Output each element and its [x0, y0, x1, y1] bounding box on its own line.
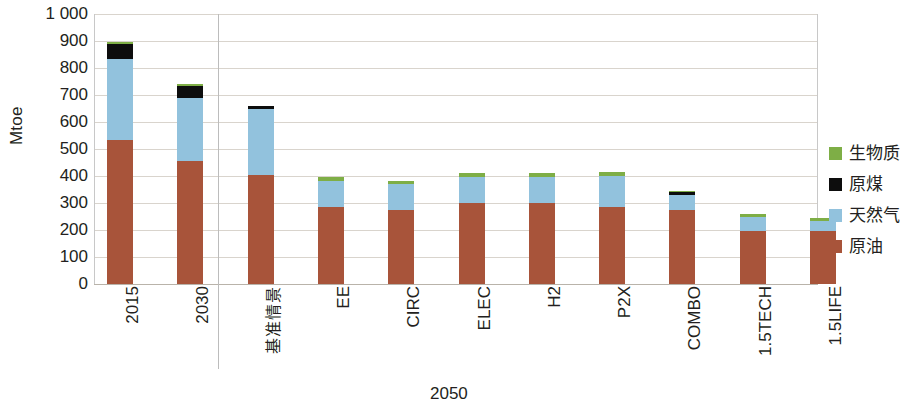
bar-2015 — [107, 42, 133, 284]
legend-item[interactable]: 原油 — [829, 231, 911, 262]
bar-segment — [318, 207, 344, 284]
y-axis-tick-label: 0 — [26, 275, 88, 292]
y-axis-tick-label: 600 — [26, 113, 88, 130]
bar-ELEC — [459, 173, 485, 284]
y-axis-tick-label: 1 000 — [26, 5, 88, 22]
bar-1.5TECH — [740, 214, 766, 284]
plot-area — [94, 14, 818, 284]
x-axis-tick-label-text: CIRC — [401, 286, 427, 328]
y-axis-title: Mtoe — [7, 115, 27, 145]
x-axis-tick-label: COMBO — [669, 286, 695, 382]
bar-CIRC — [388, 181, 414, 284]
x-axis-tick-label-text: 2030 — [190, 286, 216, 324]
x-axis-tick-label: ELEC — [459, 286, 485, 382]
y-axis-tick-label: 300 — [26, 194, 88, 211]
x-axis-tick-label: H2 — [529, 286, 555, 382]
bar-segment — [248, 109, 274, 175]
y-axis-tick-label: 800 — [26, 59, 88, 76]
bar-segment — [107, 44, 133, 59]
stacked-bar-chart: Mtoe 1 0009008007006005004003002001000 2… — [0, 0, 911, 410]
legend-item-label: 天然气 — [849, 207, 900, 224]
legend-swatch-icon — [829, 240, 842, 253]
legend-item-label: 原油 — [849, 238, 883, 255]
bar-segment — [669, 210, 695, 284]
bar-基准情景 — [248, 106, 274, 284]
x-axis-tick-label: 2015 — [107, 286, 133, 382]
bar-segment — [177, 161, 203, 284]
bar-2030 — [177, 84, 203, 284]
x-axis-tick-label-text: ELEC — [472, 286, 498, 330]
legend-item[interactable]: 原煤 — [829, 169, 911, 200]
x-axis-tick-labels: 20152030基准情景EECIRCELECH2P2XCOMBO1.5TECH1… — [94, 286, 818, 386]
x-axis-tick-label-text: 1.5TECH — [753, 286, 779, 356]
x-axis-tick-label-text: 基准情景 — [261, 286, 287, 354]
y-axis-tick-labels: 1 0009008007006005004003002001000 — [26, 0, 88, 410]
y-axis-tick-label: 200 — [26, 221, 88, 238]
x-axis-tick-label-text: EE — [331, 286, 357, 309]
bar-COMBO — [669, 191, 695, 284]
bar-segment — [529, 203, 555, 284]
y-axis-tick-label: 100 — [26, 248, 88, 265]
axis-baseline — [94, 284, 818, 285]
x-axis-tick-label: P2X — [599, 286, 625, 382]
bar-segment — [388, 210, 414, 284]
legend-item-label: 原煤 — [849, 176, 883, 193]
x-axis-tick-label-text: 2015 — [120, 286, 146, 324]
x-axis-tick-label: 1.5LIFE — [810, 286, 836, 382]
legend-item[interactable]: 天然气 — [829, 200, 911, 231]
bar-segment — [459, 203, 485, 284]
x-axis-tick-label-text: P2X — [612, 286, 638, 318]
bar-segment — [669, 195, 695, 210]
bar-segment — [529, 177, 555, 203]
x-axis-tick-label-text: 1.5LIFE — [823, 286, 849, 346]
legend: 生物质原煤天然气原油 — [829, 138, 911, 262]
bar-segment — [740, 231, 766, 284]
x-axis-tick-label: 1.5TECH — [740, 286, 766, 382]
bar-segment — [388, 184, 414, 210]
bar-segment — [107, 140, 133, 284]
bar-segment — [177, 98, 203, 161]
bar-segment — [459, 177, 485, 203]
x-axis-tick-label: CIRC — [388, 286, 414, 382]
bar-segment — [177, 86, 203, 98]
x-axis-tick-label: 基准情景 — [248, 286, 274, 382]
y-axis-tick-label: 900 — [26, 32, 88, 49]
y-axis-tick-label: 500 — [26, 140, 88, 157]
legend-swatch-icon — [829, 178, 842, 191]
x-axis-tick-label-text: COMBO — [682, 286, 708, 350]
x-axis-tick-label-text: H2 — [542, 286, 568, 308]
bar-segment — [107, 59, 133, 140]
legend-item-label: 生物质 — [849, 145, 900, 162]
bar-segment — [740, 217, 766, 232]
bar-segment — [318, 181, 344, 207]
bar-segment — [599, 176, 625, 207]
bar-EE — [318, 177, 344, 284]
y-axis-tick-label: 700 — [26, 86, 88, 103]
x-axis-group-label-2050: 2050 — [430, 384, 468, 404]
legend-swatch-icon — [829, 209, 842, 222]
bar-segment — [599, 207, 625, 284]
y-axis-tick-label: 400 — [26, 167, 88, 184]
legend-item[interactable]: 生物质 — [829, 138, 911, 169]
bar-H2 — [529, 173, 555, 284]
x-axis-tick-label: EE — [318, 286, 344, 382]
bar-P2X — [599, 172, 625, 284]
bar-segment — [248, 175, 274, 284]
legend-swatch-icon — [829, 147, 842, 160]
x-axis-tick-label: 2030 — [177, 286, 203, 382]
